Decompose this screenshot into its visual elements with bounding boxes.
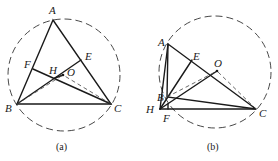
label-b-b: B: [157, 91, 164, 103]
label-c-b: C: [259, 107, 267, 119]
segment-co-b: [217, 71, 256, 109]
caption-a: (a): [56, 141, 67, 153]
center-dot-b: [216, 70, 219, 73]
figure-a: A B C E F H O (a): [5, 4, 122, 153]
triangle-abc-b: [167, 44, 256, 109]
label-f-a: F: [23, 58, 31, 70]
segment-co-a: [63, 75, 111, 104]
center-dot-a: [62, 74, 65, 77]
figure-b: A B C E F H O (b): [145, 16, 271, 153]
label-o-a: O: [67, 66, 75, 78]
label-h-b: H: [145, 103, 155, 115]
label-f-b: F: [162, 112, 170, 124]
label-a-b: A: [157, 36, 165, 48]
label-o-b: O: [214, 57, 222, 69]
segment-ho-b: [160, 71, 217, 109]
label-e-b: E: [192, 50, 200, 62]
triangle-abc-a: [17, 20, 111, 104]
geometry-diagram: A B C E F H O (a) A B C E F H O (b): [0, 0, 278, 161]
label-e-a: E: [84, 50, 92, 62]
label-c-a: C: [114, 102, 122, 114]
caption-b: (b): [207, 141, 219, 153]
label-b-a: B: [5, 102, 12, 114]
label-a-a: A: [48, 4, 56, 16]
label-h-a: H: [48, 64, 58, 76]
